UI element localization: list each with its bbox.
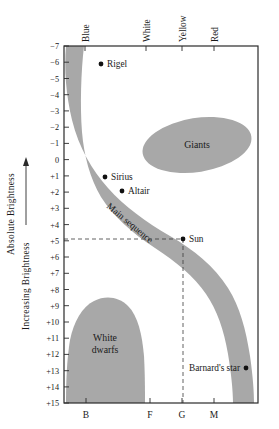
y-tick-label: +4 <box>50 221 59 230</box>
x-tick-label-m: M <box>210 410 219 420</box>
y-axis-titles: Absolute Brightness Increasing Brightnes… <box>6 157 31 330</box>
star-marker-altair[interactable] <box>120 189 125 194</box>
y-tick-label: +3 <box>50 204 59 213</box>
y-tick-label: −7 <box>50 42 59 51</box>
y-tick-label: −4 <box>50 91 59 100</box>
x-tick-label-b: B <box>83 410 89 420</box>
y-tick-label: −5 <box>50 75 59 84</box>
star-label-altair: Altair <box>128 186 151 196</box>
y-tick-label: +8 <box>50 286 59 295</box>
increasing-brightness-arrow-icon <box>23 157 29 225</box>
y-tick-label: +15 <box>46 399 59 408</box>
y-tick-label: +9 <box>50 302 59 311</box>
star-label-sirius: Sirius <box>111 172 133 182</box>
x-axis-bottom-labels: B F G M <box>83 410 219 420</box>
x-tick-label-f: F <box>147 410 152 420</box>
y-tick-label: +6 <box>50 253 59 262</box>
region-label-white-dwarfs-line1: White <box>93 332 118 343</box>
y-tick-label: +12 <box>46 350 59 359</box>
hr-diagram-figure: −7 −6 −5 −4 −3 −2 −1 0 +1 +2 +3 +4 +5 +6… <box>0 0 279 429</box>
color-label-white: White <box>142 19 152 42</box>
star-label-sun: Sun <box>189 234 204 244</box>
y-tick-label: +14 <box>46 383 59 392</box>
region-label-giants: Giants <box>184 139 210 150</box>
y-tick-label: +7 <box>50 269 59 278</box>
x-axis-top-labels: Blue White Yellow Red <box>81 15 220 42</box>
y-tick-label: +1 <box>50 172 59 181</box>
y-axis-tick-labels: −7 −6 −5 −4 −3 −2 −1 0 +1 +2 +3 +4 +5 +6… <box>46 42 59 408</box>
y-tick-label: +5 <box>50 237 59 246</box>
y-tick-label: +13 <box>46 367 59 376</box>
star-marker-rigel[interactable] <box>99 62 104 67</box>
y-tick-label: −2 <box>50 123 59 132</box>
hr-diagram-svg: −7 −6 −5 −4 −3 −2 −1 0 +1 +2 +3 +4 +5 +6… <box>0 0 279 429</box>
y-tick-label: −1 <box>50 139 59 148</box>
y-tick-label: +11 <box>46 334 59 343</box>
star-marker-sirius[interactable] <box>103 175 108 180</box>
y-axis-title-increasing-brightness: Increasing Brightness <box>21 242 31 330</box>
color-label-yellow: Yellow <box>178 15 188 42</box>
region-label-white-dwarfs-line2: dwarfs <box>92 344 119 355</box>
x-axis-top-ticks <box>85 46 214 51</box>
y-tick-label: −3 <box>50 107 59 116</box>
star-label-barnard: Barnard's star <box>189 363 241 373</box>
y-tick-label: +2 <box>50 188 59 197</box>
y-axis-title-absolute-brightness: Absolute Brightness <box>6 173 16 255</box>
y-tick-label: 0 <box>55 156 59 165</box>
color-label-red: Red <box>210 27 220 42</box>
y-tick-label: +10 <box>46 318 59 327</box>
star-marker-sun[interactable] <box>181 237 186 242</box>
x-tick-label-g: G <box>179 410 186 420</box>
color-label-blue: Blue <box>81 24 91 42</box>
star-marker-barnard[interactable] <box>244 366 249 371</box>
star-label-rigel: Rigel <box>107 59 128 69</box>
y-tick-label: −6 <box>50 58 59 67</box>
